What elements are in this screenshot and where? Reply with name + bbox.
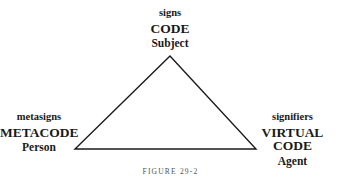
node-top-line1: signs — [120, 8, 220, 19]
node-top-line3: Subject — [120, 38, 220, 50]
node-right: signifiers VIRTUAL CODE Agent — [244, 112, 341, 167]
node-left-line1: metasigns — [0, 112, 78, 123]
node-right-line1: signifiers — [244, 112, 341, 123]
figure-caption: FIGURE 29-2 — [0, 167, 341, 176]
node-right-line3: Agent — [244, 156, 341, 168]
node-right-line2: VIRTUAL CODE — [244, 126, 341, 153]
triangle-shape — [75, 56, 256, 149]
node-left: metasigns METACODE Person — [0, 112, 78, 154]
node-top-line2: CODE — [120, 22, 220, 36]
node-left-line2: METACODE — [0, 126, 78, 140]
node-top: signs CODE Subject — [120, 8, 220, 50]
node-left-line3: Person — [0, 142, 78, 154]
